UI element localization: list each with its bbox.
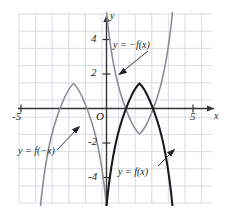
y-tick-label-2: 2 [91,66,97,78]
function-graph-figure: 4 2 -2 -4 -5 5 O y x y = −f(x) y = f(−x)… [0,0,228,214]
y-tick-label-neg4: -4 [88,170,97,182]
curve-label-f-of-neg-x: y = f(−x) [18,145,55,156]
x-axis-label: x [214,110,218,121]
x-tick-label-neg5: -5 [12,110,21,122]
curve-neg-f-of-x [107,12,173,134]
y-tick-label-4: 4 [91,32,97,44]
curve-label-neg-f-of-x: y = −f(x) [113,39,150,50]
curve-label-f-of-x: y = f(x) [118,166,148,177]
y-axis-label: y [110,10,114,21]
graph-svg [0,0,228,214]
origin-label: O [96,110,104,122]
curve-f-of-x [107,84,173,207]
y-tick-label-neg2: -2 [88,135,97,147]
x-tick-label-5: 5 [190,110,196,122]
